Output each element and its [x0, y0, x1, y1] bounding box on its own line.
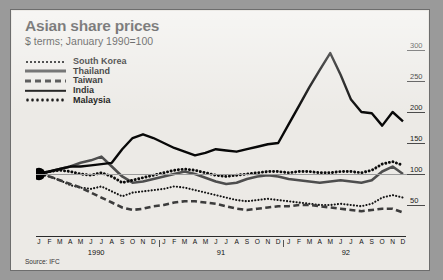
month-label: A [68, 238, 72, 245]
month-label: J [339, 238, 342, 245]
month-label: A [193, 238, 197, 245]
month-label: J [225, 238, 228, 245]
chart-subtitle: $ terms; January 1990=100 [25, 35, 153, 47]
month-label: A [359, 238, 363, 245]
month-label: S [120, 238, 124, 245]
month-label: D [276, 238, 281, 245]
month-tick-labels: JFMAMJJASONDJFMAMJJASONDJFMAMJJASOND [36, 237, 406, 248]
month-label: S [245, 238, 249, 245]
month-label: J [287, 238, 290, 245]
source-note: Source: IFC [25, 258, 60, 265]
series-line-thailand [39, 157, 403, 184]
month-label: M [307, 238, 313, 245]
month-label: J [37, 238, 40, 245]
y-tick-label: 250 [410, 72, 423, 81]
y-tick-label: 300 [410, 41, 423, 50]
chart-title: Asian share prices [25, 17, 159, 35]
year-label: 92 [342, 248, 350, 257]
month-label: A [234, 238, 238, 245]
y-tick-mark [407, 174, 425, 175]
month-label: M [203, 238, 209, 245]
y-tick-mark [407, 81, 425, 82]
month-label: J [162, 238, 165, 245]
year-label: 1990 [88, 248, 105, 257]
chart-figure: Asian share prices $ terms; January 1990… [10, 9, 430, 271]
y-tick-mark [407, 205, 425, 206]
month-label: N [390, 238, 395, 245]
month-label: J [349, 238, 352, 245]
year-labels: 19909192 [36, 248, 406, 258]
month-label: F [172, 238, 176, 245]
month-label: S [370, 238, 374, 245]
year-separator [159, 240, 160, 247]
month-label: D [401, 238, 406, 245]
month-label: M [57, 238, 63, 245]
month-label: N [141, 238, 146, 245]
series-line-india [39, 53, 403, 174]
y-tick-label: 200 [410, 103, 423, 112]
baseline-gridline [36, 174, 407, 175]
series-line-south-korea [39, 174, 403, 206]
y-tick-label: 100 [410, 165, 423, 174]
month-label: J [214, 238, 217, 245]
month-label: J [100, 238, 103, 245]
month-label: A [318, 238, 322, 245]
y-tick-label: 50 [410, 196, 418, 205]
month-label: D [151, 238, 156, 245]
plot-area [36, 50, 406, 236]
month-label: F [297, 238, 301, 245]
month-label: A [110, 238, 114, 245]
y-tick-label: 150 [410, 134, 423, 143]
series-line-taiwan [39, 174, 403, 212]
month-label: O [380, 238, 385, 245]
month-label: J [89, 238, 92, 245]
month-label: F [47, 238, 51, 245]
month-label: N [265, 238, 270, 245]
month-label: M [78, 238, 84, 245]
month-label: M [327, 238, 333, 245]
year-label: 91 [217, 248, 225, 257]
month-label: M [182, 238, 188, 245]
series-canvas [36, 50, 406, 236]
y-tick-mark [407, 50, 425, 51]
month-label: O [255, 238, 260, 245]
month-label: O [130, 238, 135, 245]
x-axis: JFMAMJJASONDJFMAMJJASONDJFMAMJJASOND 199… [36, 236, 406, 258]
y-tick-mark [407, 112, 425, 113]
y-tick-mark [407, 143, 425, 144]
year-separator [283, 240, 284, 247]
